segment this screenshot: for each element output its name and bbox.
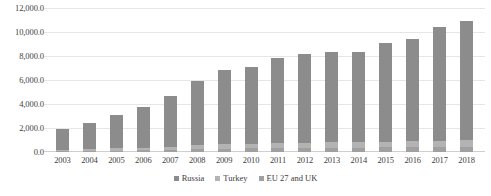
bar-stack (110, 115, 123, 152)
bar-column (453, 8, 480, 152)
y-axis-tick-label: 4,000.0 (2, 100, 44, 109)
bar-segment (137, 107, 150, 148)
bar-column (211, 8, 238, 152)
bar-column (372, 8, 399, 152)
bar-stack (433, 27, 446, 152)
x-axis-tick-label: 2011 (265, 155, 292, 165)
bar-segment (298, 148, 311, 152)
x-axis-tick-label: 2009 (211, 155, 238, 165)
bar-stack (245, 67, 258, 152)
bar-stack (379, 43, 392, 152)
bar-segment (298, 54, 311, 143)
bar-column (291, 8, 318, 152)
bar-column (184, 8, 211, 152)
legend-swatch-icon (215, 176, 220, 181)
bar-column (238, 8, 265, 152)
stacked-bar-chart: 12,000.0 10,000.0 8,000.0 6,000.0 4,000.… (0, 0, 491, 196)
bar-segment (460, 21, 473, 140)
x-axis-tick-label: 2006 (130, 155, 157, 165)
bar-stack (271, 58, 284, 152)
legend-item[interactable]: Russia (174, 174, 205, 183)
bar-segment (352, 148, 365, 152)
bar-series-container (44, 8, 485, 152)
bar-segment (460, 147, 473, 152)
x-axis-labels: 2003200420052006200720082009201020112012… (44, 155, 485, 165)
bar-segment (83, 151, 96, 152)
bar-segment (433, 27, 446, 141)
bar-stack (460, 21, 473, 152)
bar-column (265, 8, 292, 152)
bar-segment (245, 67, 258, 144)
chart-legend: RussiaTurkeyEU 27 and UK (0, 174, 491, 183)
bar-segment (164, 150, 177, 152)
x-axis-tick-label: 2010 (238, 155, 265, 165)
x-axis-tick-label: 2014 (345, 155, 372, 165)
y-axis-tick-label: 2,000.0 (2, 124, 44, 133)
x-axis-tick-label: 2005 (103, 155, 130, 165)
bar-stack (352, 52, 365, 152)
y-axis-tick-label: 6,000.0 (2, 76, 44, 85)
bar-segment (137, 150, 150, 152)
bar-segment (191, 81, 204, 146)
bar-column (399, 8, 426, 152)
x-axis-tick-label: 2015 (372, 155, 399, 165)
bar-segment (83, 123, 96, 149)
bar-segment (352, 52, 365, 142)
x-axis-tick-label: 2003 (49, 155, 76, 165)
bar-segment (406, 39, 419, 141)
bar-segment (218, 70, 231, 144)
bar-segment (110, 115, 123, 149)
x-axis-tick-label: 2016 (399, 155, 426, 165)
bar-segment (433, 147, 446, 152)
bar-column (49, 8, 76, 152)
legend-item[interactable]: EU 27 and UK (259, 174, 318, 183)
legend-label: EU 27 and UK (267, 174, 318, 183)
x-axis-tick-label: 2004 (76, 155, 103, 165)
bar-segment (245, 148, 258, 152)
y-axis-tick-label: 12,000.0 (2, 4, 44, 13)
x-axis-tick-label: 2018 (453, 155, 480, 165)
legend-item[interactable]: Turkey (215, 174, 247, 183)
y-axis-tick-label: 0.0 (2, 148, 44, 157)
x-axis-tick-label: 2008 (184, 155, 211, 165)
bar-column (426, 8, 453, 152)
bar-column (103, 8, 130, 152)
bar-column (345, 8, 372, 152)
x-axis-tick-label: 2017 (426, 155, 453, 165)
legend-label: Russia (182, 174, 205, 183)
bar-segment (271, 148, 284, 152)
bar-segment (164, 96, 177, 146)
bar-stack (325, 52, 338, 152)
y-axis-tick-label: 8,000.0 (2, 52, 44, 61)
bar-segment (218, 149, 231, 152)
bar-segment (406, 147, 419, 152)
bar-segment (110, 151, 123, 152)
bar-column (76, 8, 103, 152)
bar-column (157, 8, 184, 152)
bar-segment (379, 43, 392, 141)
bar-stack (406, 39, 419, 152)
bar-stack (137, 107, 150, 152)
bar-stack (83, 123, 96, 152)
bar-segment (56, 151, 69, 152)
legend-label: Turkey (223, 174, 247, 183)
bar-stack (164, 96, 177, 152)
bar-segment (325, 52, 338, 142)
bar-stack (191, 81, 204, 152)
legend-swatch-icon (174, 176, 179, 181)
bar-stack (218, 70, 231, 152)
legend-swatch-icon (259, 176, 264, 181)
bar-segment (379, 147, 392, 152)
bar-segment (56, 129, 69, 149)
bar-segment (325, 148, 338, 152)
x-axis-tick-label: 2007 (157, 155, 184, 165)
x-axis-tick-label: 2013 (318, 155, 345, 165)
bar-segment (191, 149, 204, 152)
bar-segment (271, 58, 284, 143)
y-axis-tick-label: 10,000.0 (2, 28, 44, 37)
bar-stack (56, 129, 69, 152)
bar-column (130, 8, 157, 152)
x-axis-tick-label: 2012 (291, 155, 318, 165)
bar-stack (298, 54, 311, 152)
bar-column (318, 8, 345, 152)
